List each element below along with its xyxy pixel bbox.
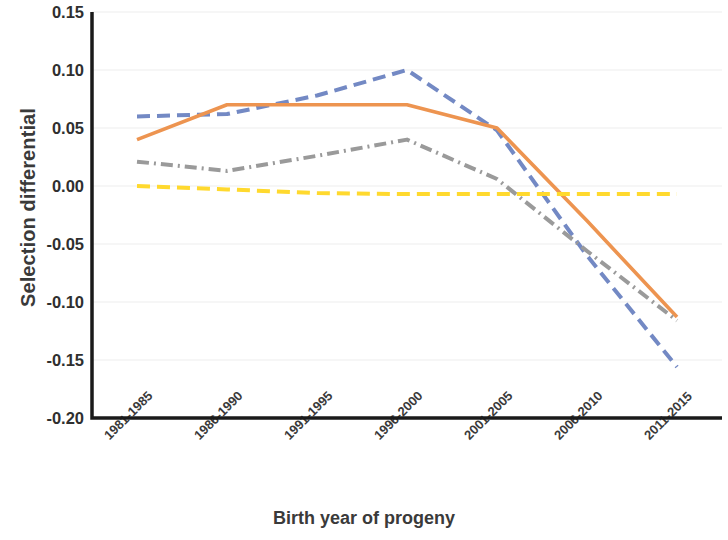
data-line-series-blue — [137, 70, 677, 367]
data-series-layer — [137, 70, 677, 367]
axis-lines — [92, 12, 722, 418]
data-line-series-yellow — [137, 186, 677, 194]
plot-area — [0, 0, 728, 540]
data-line-series-orange — [137, 105, 677, 317]
chart-container: Selection differential Birth year of pro… — [0, 0, 728, 540]
